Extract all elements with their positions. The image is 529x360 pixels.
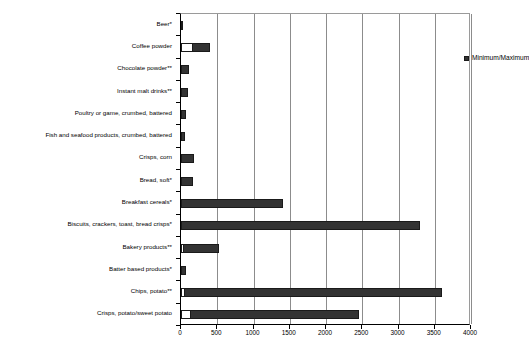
bar-group [181, 65, 189, 74]
chart-legend: Minimum/Maximum [464, 55, 529, 62]
bar-row [181, 310, 469, 319]
bar-row [181, 177, 469, 186]
bar-minimum [181, 43, 192, 52]
bar-group [181, 110, 186, 119]
bar-maximum [184, 288, 442, 297]
bar-row [181, 110, 469, 119]
x-tick-label-2500: 2500 [354, 330, 368, 336]
legend-swatch-minimum-maximum [464, 56, 469, 61]
x-tick-label-3500: 3500 [427, 330, 441, 336]
category-label: Breakfast cereals* [122, 199, 172, 205]
bar-group [181, 21, 183, 30]
x-tick-label-4000: 4000 [463, 330, 477, 336]
bar-group [181, 221, 420, 230]
category-label: Crisps, corn [139, 154, 172, 160]
bar-group [181, 199, 283, 208]
bar-maximum [181, 177, 193, 186]
bar-group [181, 288, 442, 297]
bar-group [181, 310, 359, 319]
category-label: Bakery products** [122, 244, 172, 250]
bar-maximum [181, 199, 283, 208]
bar-maximum [181, 154, 194, 163]
category-label: Instant malt drinks** [117, 88, 172, 94]
bar-group [181, 132, 185, 141]
bar-row [181, 43, 469, 52]
bar-maximum [181, 88, 188, 97]
bar-maximum [181, 221, 420, 230]
bar-row [181, 132, 469, 141]
bar-group [181, 154, 194, 163]
bar-group [181, 88, 188, 97]
bar-maximum [190, 310, 359, 319]
bar-maximum [181, 65, 189, 74]
bar-maximum [181, 21, 183, 30]
category-label: Chocolate powder** [117, 65, 172, 71]
x-tick-label-2000: 2000 [318, 330, 332, 336]
x-tick-label-3000: 3000 [390, 330, 404, 336]
bar-row [181, 199, 469, 208]
category-label: Coffee powder [132, 43, 172, 49]
x-tick-label-500: 500 [211, 330, 222, 336]
bar-rows [181, 14, 469, 324]
category-label: Bread, soft* [140, 177, 172, 183]
category-label: Batter based products* [109, 266, 172, 272]
bar-group [181, 266, 186, 275]
bar-row [181, 266, 469, 275]
category-label: Chips, potato** [131, 288, 172, 294]
x-tick-label-1500: 1500 [282, 330, 296, 336]
bar-row [181, 21, 469, 30]
bar-maximum [183, 244, 219, 253]
bar-minimum [181, 310, 190, 319]
category-label: Poultry or game, crumbed, battered [75, 110, 172, 116]
bar-row [181, 244, 469, 253]
bar-group [181, 43, 210, 52]
bar-group [181, 244, 219, 253]
category-label: Biscuits, crackers, toast, bread crisps* [67, 221, 172, 227]
x-axis-tick-labels: 05001000150020002500300035004000 [180, 330, 470, 342]
category-label: Beer* [157, 21, 172, 27]
bar-maximum [181, 110, 186, 119]
plot-area: Minimum/Maximum [180, 13, 470, 325]
bar-maximum [192, 43, 210, 52]
legend-label-minimum-maximum: Minimum/Maximum [472, 55, 529, 62]
x-tick-label-0: 0 [178, 330, 182, 336]
bar-maximum [181, 132, 185, 141]
bar-row [181, 288, 469, 297]
bar-group [181, 177, 193, 186]
x-tick-label-1000: 1000 [245, 330, 259, 336]
bar-maximum [181, 266, 186, 275]
bar-row [181, 154, 469, 163]
category-label: Fish and seafood products, crumbed, batt… [45, 132, 172, 138]
category-axis: Beer*Coffee powderChocolate powder**Inst… [0, 13, 176, 325]
category-label: Crisps, potato/sweet potato [97, 310, 172, 316]
bar-row [181, 65, 469, 74]
bar-row [181, 221, 469, 230]
bar-row [181, 88, 469, 97]
